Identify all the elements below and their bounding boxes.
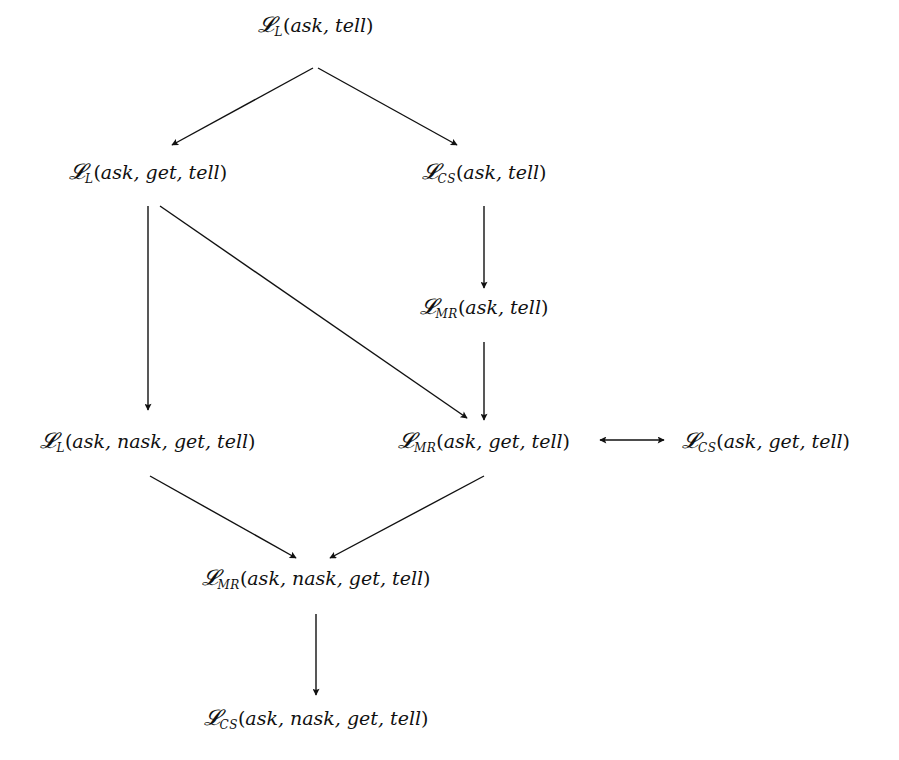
node-arguments: ask, tell (290, 14, 366, 36)
script-l-symbol: 𝓛 (398, 428, 414, 453)
script-l-symbol: 𝓛 (202, 565, 218, 590)
script-l-symbol: 𝓛 (422, 159, 438, 184)
node-subscript: MR (218, 578, 240, 592)
node-l-ask-get-tell: 𝓛L(ask, get, tell) (69, 159, 227, 186)
node-mr-ask-get-tell: 𝓛MR(ask, get, tell) (398, 428, 570, 455)
script-l-symbol: 𝓛 (69, 159, 85, 184)
node-arguments: ask, tell (465, 296, 541, 318)
node-arguments: ask, get, tell (444, 430, 563, 452)
arrow-n6-to-n8 (330, 476, 484, 558)
node-subscript: MR (436, 307, 458, 321)
script-l-symbol: 𝓛 (420, 294, 436, 319)
node-l-ask-tell: 𝓛L(ask, tell) (258, 12, 373, 39)
node-subscript: CS (438, 172, 456, 186)
node-subscript: CS (220, 718, 238, 732)
node-subscript: CS (698, 441, 716, 455)
node-arguments: ask, tell (463, 161, 539, 183)
script-l-symbol: 𝓛 (204, 705, 220, 730)
edges-layer (0, 0, 899, 760)
node-l-ask-nask-get-tell: 𝓛L(ask, nask, get, tell) (40, 428, 255, 455)
language-hierarchy-diagram: 𝓛L(ask, tell)𝓛L(ask, get, tell)𝓛CS(ask, … (0, 0, 899, 760)
node-mr-ask-tell: 𝓛MR(ask, tell) (420, 294, 549, 321)
arrow-n5-to-n8 (150, 476, 296, 558)
node-subscript: MR (414, 441, 436, 455)
arrow-n1-to-n3 (318, 68, 457, 145)
arrow-n1-to-n2 (172, 68, 313, 145)
node-arguments: ask, nask, get, tell (72, 430, 248, 452)
node-arguments: ask, get, tell (101, 161, 220, 183)
node-arguments: ask, nask, get, tell (247, 567, 423, 589)
node-cs-ask-nask-get-tell: 𝓛CS(ask, nask, get, tell) (204, 705, 429, 732)
script-l-symbol: 𝓛 (40, 428, 56, 453)
node-cs-ask-tell: 𝓛CS(ask, tell) (422, 159, 547, 186)
node-mr-ask-nask-get-tell: 𝓛MR(ask, nask, get, tell) (202, 565, 431, 592)
node-arguments: ask, nask, get, tell (245, 707, 421, 729)
script-l-symbol: 𝓛 (258, 12, 274, 37)
node-cs-ask-get-tell: 𝓛CS(ask, get, tell) (682, 428, 850, 455)
node-arguments: ask, get, tell (724, 430, 843, 452)
script-l-symbol: 𝓛 (682, 428, 698, 453)
